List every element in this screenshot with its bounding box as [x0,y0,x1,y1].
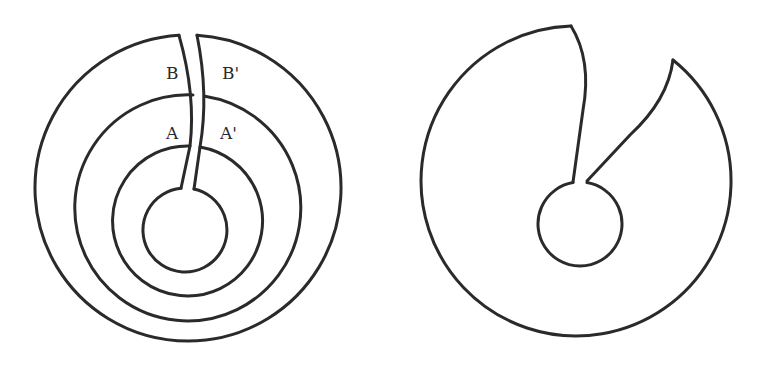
cut-right-edge [587,60,673,181]
label-A-prime: A' [219,123,237,143]
page: { "figures": [ { "id": "left", "descript… [0,0,765,368]
label-B: B [166,63,179,83]
middle-arc [75,95,301,321]
inner-hole [538,183,622,266]
slit-right-edge [194,35,204,189]
label-A: A [165,123,179,143]
outer-boundary [421,26,731,336]
diagram-canvas: B B' A A' [0,0,765,368]
cut-left-edge [571,26,586,182]
label-B-prime: B' [222,63,239,83]
slit-left-edge [179,35,192,188]
inner-arc [113,146,263,296]
innermost-arc [143,188,227,272]
right-figure [421,26,731,336]
left-figure: B B' A A' [35,35,341,341]
